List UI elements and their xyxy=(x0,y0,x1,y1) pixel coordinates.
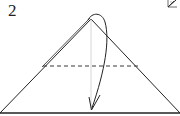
triangle-left-edge-double xyxy=(42,18,90,67)
corner-arrow-icon xyxy=(168,0,177,7)
fold-diagram xyxy=(0,0,180,116)
